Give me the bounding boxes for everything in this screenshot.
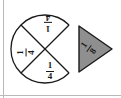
figure-canvas: 1 4 1 4 1 4 1 8 [0, 0, 121, 98]
sector-label-left-numerator: 1 [16, 44, 25, 60]
fraction-figure: 1 4 1 4 1 4 1 8 [0, 0, 121, 98]
sector-label-top: 1 4 [40, 12, 56, 33]
sector-label-top-denominator: 4 [40, 12, 56, 21]
sector-label-bottom: 1 4 [42, 61, 58, 82]
sector-label-bottom-numerator: 1 [42, 61, 58, 70]
sector-label-top-numerator: 1 [40, 23, 56, 32]
sector-label-left: 1 4 [16, 44, 37, 60]
sector-label-bottom-denominator: 4 [42, 72, 58, 81]
sector-label-left-denominator: 4 [27, 44, 36, 60]
